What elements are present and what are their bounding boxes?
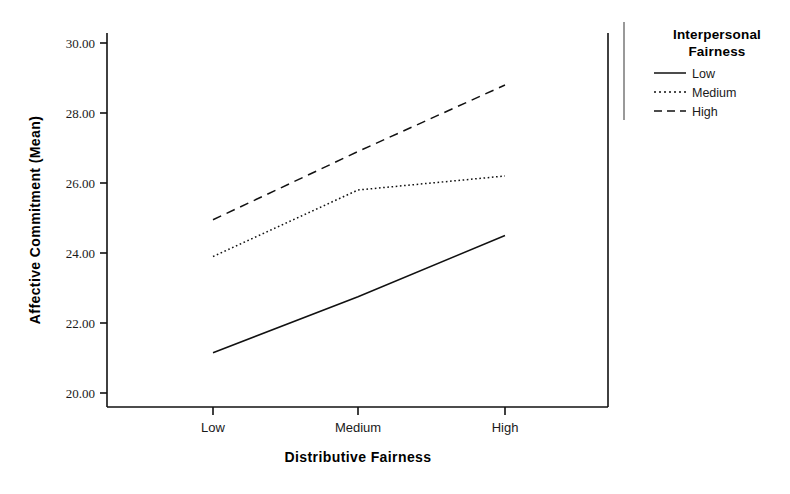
legend-title-line-2: Fairness bbox=[688, 44, 745, 59]
y-axis-ticks bbox=[100, 43, 107, 393]
legend-label-medium: Medium bbox=[692, 86, 736, 100]
y-tick-label-24: 24.00 bbox=[66, 246, 95, 261]
x-tick-label-high: High bbox=[492, 420, 519, 435]
x-axis-title: Distributive Fairness bbox=[285, 449, 432, 465]
y-tick-label-30: 30.00 bbox=[66, 36, 95, 51]
chart-figure: 30.00 28.00 26.00 24.00 22.00 20.00 Affe… bbox=[0, 0, 790, 494]
legend-title-line-1: Interpersonal bbox=[673, 27, 761, 42]
series-line-medium bbox=[213, 176, 505, 257]
series-line-low bbox=[213, 236, 505, 353]
series-line-high bbox=[213, 85, 505, 220]
legend-label-low: Low bbox=[692, 67, 716, 81]
y-tick-label-28: 28.00 bbox=[66, 106, 95, 121]
interaction-line-chart: 30.00 28.00 26.00 24.00 22.00 20.00 Affe… bbox=[0, 0, 790, 494]
legend-item-high[interactable]: High bbox=[654, 105, 718, 119]
x-axis-ticks bbox=[213, 407, 505, 415]
y-tick-label-20: 20.00 bbox=[66, 386, 95, 401]
legend-label-high: High bbox=[692, 105, 718, 119]
y-tick-label-22: 22.00 bbox=[66, 316, 95, 331]
legend: Interpersonal Fairness Low Medium High bbox=[624, 22, 761, 120]
plot-axes bbox=[107, 33, 608, 407]
legend-item-medium[interactable]: Medium bbox=[654, 86, 736, 100]
y-tick-label-26: 26.00 bbox=[66, 176, 95, 191]
legend-item-low[interactable]: Low bbox=[654, 67, 716, 81]
x-axis-tick-labels: Low Medium High bbox=[201, 420, 518, 435]
y-axis-title: Affective Commitment (Mean) bbox=[27, 116, 43, 324]
x-tick-label-low: Low bbox=[201, 420, 225, 435]
x-tick-label-medium: Medium bbox=[335, 420, 381, 435]
y-axis-tick-labels: 30.00 28.00 26.00 24.00 22.00 20.00 bbox=[66, 36, 95, 401]
series-group bbox=[213, 85, 505, 353]
